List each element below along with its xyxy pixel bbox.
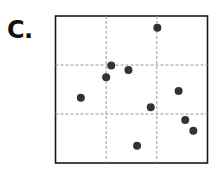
data-point <box>189 127 197 135</box>
data-point <box>181 116 189 124</box>
data-point <box>175 87 183 95</box>
data-point <box>147 103 155 111</box>
data-point <box>133 142 141 150</box>
plot-frame <box>56 16 208 163</box>
data-point <box>153 24 161 32</box>
data-point <box>107 61 115 69</box>
data-point <box>124 66 132 74</box>
scatter-plot <box>0 0 213 171</box>
data-point <box>102 73 110 81</box>
data-point <box>77 94 85 102</box>
